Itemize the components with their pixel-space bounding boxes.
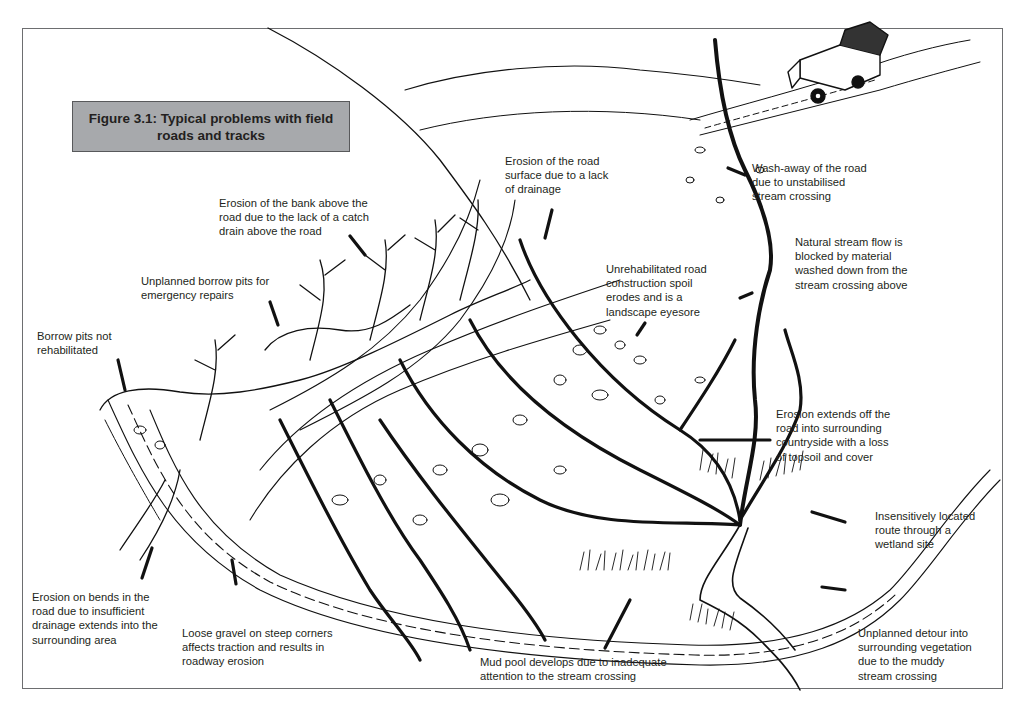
figure-title: Figure 3.1: Typical problems with field … bbox=[89, 110, 333, 144]
label-road-surface-erosion: Erosion of the road surface due to a lac… bbox=[505, 154, 608, 197]
label-borrow-pits-not-rehab: Borrow pits not rehabilitated bbox=[37, 329, 112, 357]
ridge-line bbox=[268, 28, 530, 300]
label-wetland-route: Insensitively located route through a we… bbox=[875, 509, 975, 552]
label-stream-blocked: Natural stream flow is blocked by materi… bbox=[795, 235, 908, 292]
label-unplanned-detour: Unplanned detour into surrounding vegeta… bbox=[858, 626, 972, 683]
borrow-pit-upper bbox=[265, 305, 410, 350]
label-erosion-countryside: Erosion extends off the road into surrou… bbox=[776, 407, 890, 464]
label-bend-erosion: Erosion on bends in the road due to insu… bbox=[32, 590, 158, 647]
callout-arrows bbox=[118, 168, 845, 648]
land-rover-icon bbox=[788, 22, 888, 103]
wetland-grass bbox=[580, 450, 803, 630]
label-bank-erosion: Erosion of the bank above the road due t… bbox=[219, 196, 369, 239]
label-loose-gravel: Loose gravel on steep corners affects tr… bbox=[182, 626, 333, 669]
label-unplanned-borrow-pits: Unplanned borrow pits for emergency repa… bbox=[141, 274, 269, 302]
label-spoil-eyesore: Unrehabilitated road construction spoil … bbox=[606, 262, 707, 319]
label-mud-pool: Mud pool develops due to inadequate atte… bbox=[480, 655, 667, 683]
figure-title-box: Figure 3.1: Typical problems with field … bbox=[72, 101, 350, 152]
gullies bbox=[280, 40, 801, 660]
label-wash-away: Wash-away of the road due to unstabilise… bbox=[752, 161, 867, 204]
